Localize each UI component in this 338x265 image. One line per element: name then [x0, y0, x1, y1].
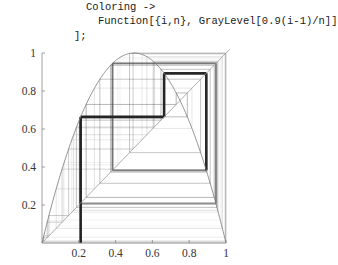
x-tick-label: 0.4: [108, 247, 123, 259]
cobweb-plot: 0.20.40.60.81 0.20.40.60.81: [0, 0, 338, 265]
y-tick-label: 0.6: [22, 123, 37, 135]
y-tick-label: 0.2: [22, 199, 37, 211]
x-tick-label: 1: [223, 247, 229, 259]
y-tick-label: 0.4: [22, 161, 37, 173]
y-tick-label: 1: [30, 47, 36, 59]
y-tick-label: 0.8: [22, 85, 37, 97]
x-tick-label: 0.8: [182, 247, 197, 259]
x-tick-label: 0.2: [72, 247, 87, 259]
diagonal-line: [42, 49, 230, 243]
x-tick-label: 0.6: [145, 247, 160, 259]
y-axis-ticks: 0.20.40.60.81: [22, 47, 45, 211]
